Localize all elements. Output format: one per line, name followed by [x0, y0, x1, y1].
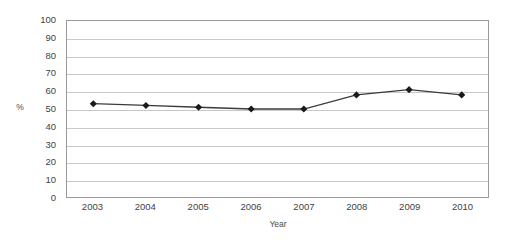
x-tick-label: 2009	[399, 201, 420, 213]
data-point-marker	[195, 104, 202, 111]
y-tick-label: 100	[40, 15, 56, 25]
line-chart: % 1009080706050403020100 200320042005200…	[0, 0, 510, 245]
y-tick-label: 40	[45, 122, 56, 132]
data-point-marker	[90, 100, 97, 107]
x-tick-label: 2005	[188, 201, 209, 213]
x-axis-tick-labels: 20032004200520062007200820092010	[66, 201, 489, 215]
x-tick-label: 2004	[135, 201, 156, 213]
y-tick-label: 60	[45, 86, 56, 96]
x-tick-label: 2008	[346, 201, 367, 213]
data-point-marker	[300, 105, 307, 112]
y-tick-label: 90	[45, 33, 56, 43]
y-tick-label: 10	[45, 175, 56, 185]
series-line-group	[67, 21, 488, 197]
x-tick-label: 2010	[452, 201, 473, 213]
y-tick-label: 20	[45, 157, 56, 167]
x-axis-title: Year	[248, 219, 308, 229]
plot-area	[66, 20, 489, 198]
y-tick-label: 30	[45, 140, 56, 150]
x-tick-label: 2007	[293, 201, 314, 213]
y-tick-label: 80	[45, 51, 56, 61]
y-axis-tick-labels: 1009080706050403020100	[0, 20, 62, 198]
y-tick-label: 70	[45, 68, 56, 78]
x-tick-label: 2003	[82, 201, 103, 213]
y-tick-label: 50	[45, 104, 56, 114]
data-point-marker	[458, 91, 465, 98]
data-point-marker	[248, 105, 255, 112]
data-point-marker	[405, 86, 412, 93]
x-tick-label: 2006	[240, 201, 261, 213]
y-tick-label: 0	[51, 193, 56, 203]
data-point-marker	[142, 102, 149, 109]
data-point-marker	[353, 91, 360, 98]
